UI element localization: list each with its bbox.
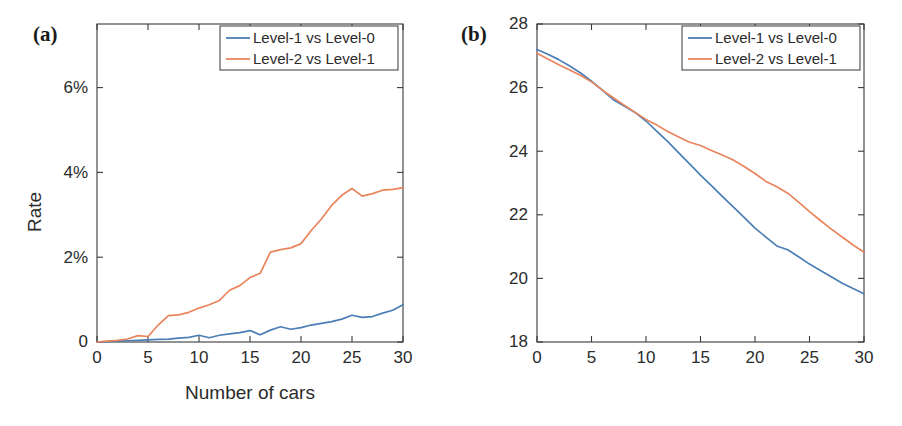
panel-b-xtick-label: 20 bbox=[746, 348, 765, 367]
figure-canvas: (a) Rate Number of cars 05101520253002%4… bbox=[0, 0, 902, 426]
panel-b-ytick-label: 26 bbox=[509, 78, 528, 97]
panel-b-ytick-label: 20 bbox=[509, 269, 528, 288]
panel-a-ytick-label: 2% bbox=[63, 248, 88, 267]
panel-a-xtick-label: 0 bbox=[92, 348, 101, 367]
panel-b-series-2 bbox=[537, 53, 864, 252]
panel-a-xtick-label: 15 bbox=[241, 348, 260, 367]
panel-b-series-1 bbox=[537, 49, 864, 293]
panel-a-plot: 05101520253002%4%6%Level-1 vs Level-0Lev… bbox=[0, 0, 451, 426]
panel-a-legend-label-1: Level-1 vs Level-0 bbox=[253, 29, 375, 46]
panel-a-ytick-label: 4% bbox=[63, 163, 88, 182]
panel-b-xtick-label: 0 bbox=[532, 348, 541, 367]
panel-b-legend-label-2: Level-2 vs Level-1 bbox=[715, 50, 837, 67]
panel-b-axes-box bbox=[537, 24, 864, 342]
panel-a-ytick-label: 0 bbox=[79, 332, 88, 351]
panel-a-legend-label-2: Level-2 vs Level-1 bbox=[253, 50, 375, 67]
panel-b-legend-label-1: Level-1 vs Level-0 bbox=[715, 29, 837, 46]
panel-a-ytick-label: 6% bbox=[63, 78, 88, 97]
panel-a-xtick-label: 20 bbox=[292, 348, 311, 367]
panel-b-ytick-label: 22 bbox=[509, 205, 528, 224]
panel-b-xtick-label: 15 bbox=[691, 348, 710, 367]
panel-b-xtick-label: 10 bbox=[637, 348, 656, 367]
panel-b-xtick-label: 30 bbox=[855, 348, 874, 367]
panel-a-series-2 bbox=[97, 188, 403, 342]
panel-b: (b) Average speed [m/s] Number of cars 0… bbox=[451, 0, 902, 426]
panel-a-xtick-label: 10 bbox=[190, 348, 209, 367]
panel-a-axes-box bbox=[97, 24, 403, 342]
panel-b-plot: 051015202530182022242628Level-1 vs Level… bbox=[451, 0, 902, 426]
panel-b-ytick-label: 18 bbox=[509, 332, 528, 351]
panel-a-xtick-label: 5 bbox=[143, 348, 152, 367]
panel-a: (a) Rate Number of cars 05101520253002%4… bbox=[0, 0, 451, 426]
panel-a-xtick-label: 25 bbox=[343, 348, 362, 367]
panel-b-xtick-label: 5 bbox=[587, 348, 596, 367]
panel-b-xtick-label: 25 bbox=[800, 348, 819, 367]
panel-b-ytick-label: 24 bbox=[509, 142, 528, 161]
panel-a-xtick-label: 30 bbox=[394, 348, 413, 367]
panel-b-ytick-label: 28 bbox=[509, 14, 528, 33]
